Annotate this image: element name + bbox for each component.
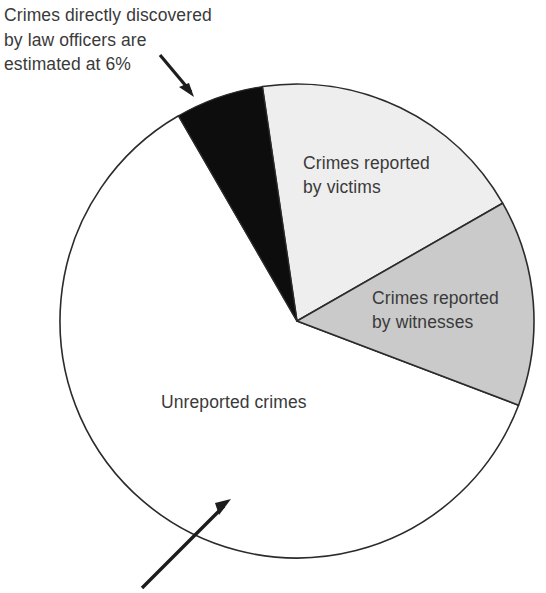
annotation-officers-note: Crimes directly discovered by law office…	[4, 3, 254, 77]
pie-label-witnesses: Crimes reported by witnesses	[372, 286, 546, 334]
pie-label-unreported: Unreported crimes	[161, 390, 381, 414]
pie-label-victims: Crimes reported by victims	[303, 151, 518, 199]
